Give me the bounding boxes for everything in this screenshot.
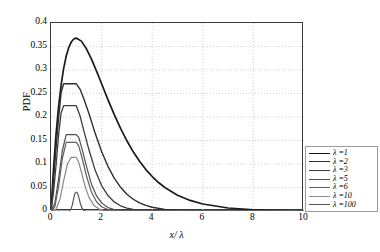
x-tick-label: 6: [199, 213, 204, 223]
chart-figure: PDF 00.050.10.150.20.250.30.350.4 024681…: [0, 0, 380, 252]
x-tick-label: 8: [250, 213, 255, 223]
legend-line-icon: [309, 170, 330, 171]
y-tick-label: 0.35: [30, 41, 47, 51]
legend: λ =1λ =2λ =3λ =5λ =6λ =10λ =100: [305, 146, 378, 212]
y-tick-label: 0.3: [35, 64, 47, 74]
x-tick-label: 2: [98, 213, 103, 223]
y-tick-label: 0.15: [30, 135, 47, 145]
y-tick-label: 0.1: [35, 158, 47, 168]
legend-line-icon: [309, 161, 330, 162]
y-tick-label: 0.25: [30, 88, 47, 98]
legend-line-icon: [309, 179, 330, 180]
x-axis-label: x/ λ: [50, 229, 303, 240]
y-axis-tick-labels: 00.050.10.150.20.250.30.350.4: [0, 22, 47, 210]
series-line: [51, 135, 304, 211]
legend-item-label: λ =100: [333, 201, 356, 210]
x-axis-label-text: x/ λ: [169, 229, 183, 240]
x-tick-label: 0: [48, 213, 53, 223]
plot-canvas: [51, 23, 304, 211]
legend-line-icon: [309, 204, 330, 205]
plot-area: [50, 22, 303, 210]
legend-line-icon: [309, 187, 330, 188]
legend-item[interactable]: λ =100: [308, 201, 375, 210]
legend-line-icon: [309, 196, 330, 197]
x-axis-tick-labels: 0246810: [50, 213, 303, 227]
y-tick-label: 0: [42, 205, 47, 215]
x-tick-label: 4: [149, 213, 154, 223]
y-tick-label: 0.2: [35, 111, 47, 121]
data-curves: [51, 38, 304, 211]
y-tick-label: 0.05: [30, 182, 47, 192]
x-tick-label: 10: [298, 213, 308, 223]
legend-line-icon: [309, 153, 330, 154]
y-tick-label: 0.4: [35, 17, 47, 27]
